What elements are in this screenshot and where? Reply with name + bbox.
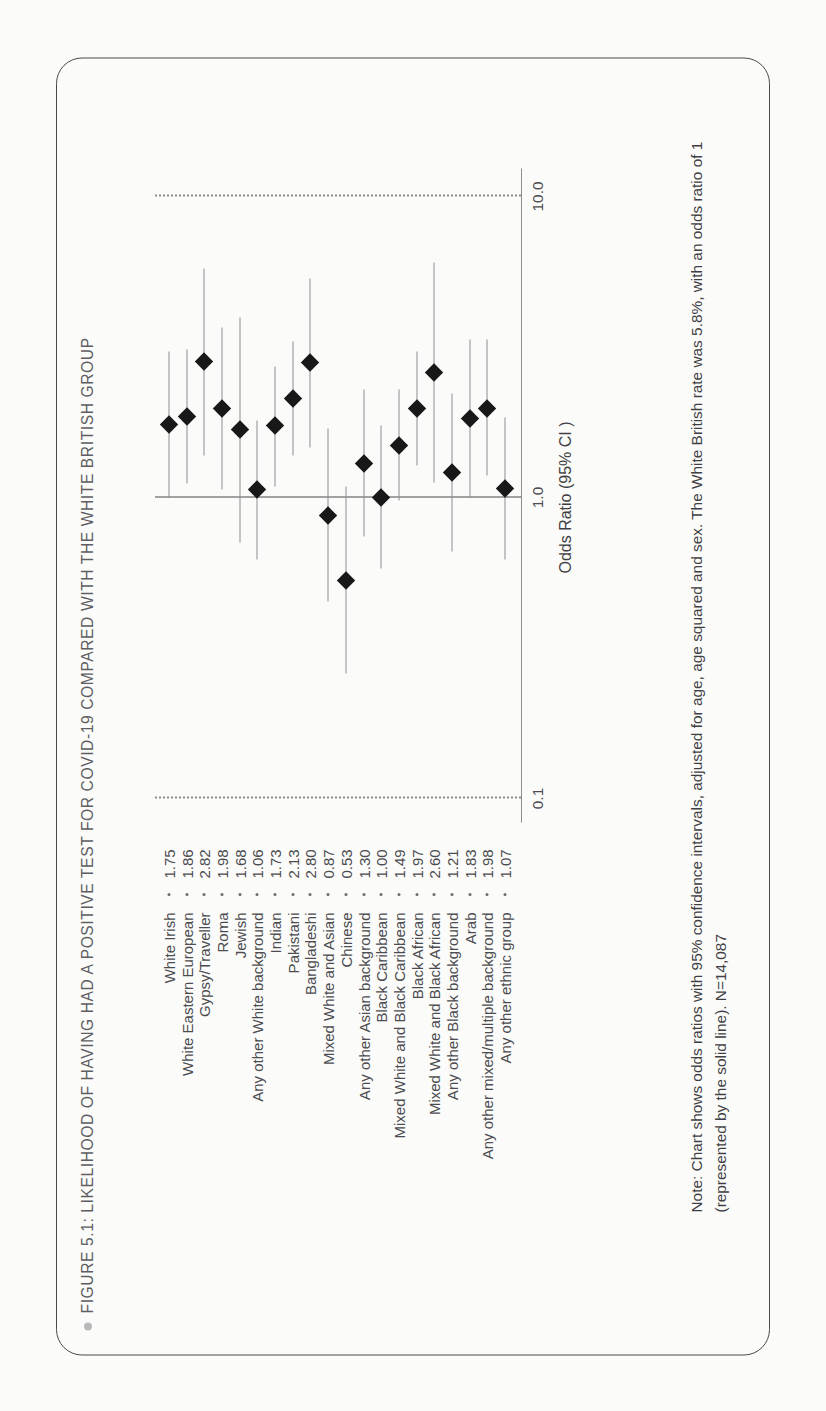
odds-ratio-marker [195, 352, 213, 370]
odds-ratio-value: 2.80 [302, 849, 319, 878]
x-tick-10.0: 10.0 [529, 181, 547, 211]
row-separator-dot-icon [486, 893, 489, 896]
x-tick-0.1: 0.1 [529, 787, 547, 809]
category-label: Mixed White and Asian [320, 912, 337, 1212]
figure-page: FIGURE 5.1: LIKELIHOOD OF HAVING HAD A P… [0, 0, 826, 1411]
category-label: Any other ethnic group [497, 912, 514, 1212]
row-separator-dot-icon [415, 893, 418, 896]
figure-note: Note: Chart shows odds ratios with 95% c… [685, 87, 733, 1212]
odds-ratio-value: 1.75 [161, 849, 178, 878]
odds-ratio-marker [301, 353, 319, 371]
forest-plot: 0.11.010.0Odds Ratio (95% CI )White Iris… [151, 170, 591, 1212]
row-separator-dot-icon [203, 893, 206, 896]
page-title: FIGURE 5.1: LIKELIHOOD OF HAVING HAD A P… [79, 337, 97, 1313]
category-label: Any other mixed/multiple background [479, 912, 496, 1212]
odds-ratio-marker [425, 363, 443, 381]
odds-ratio-value: 1.86 [178, 849, 195, 878]
category-label: Black African [408, 912, 425, 1212]
odds-ratio-marker [177, 407, 195, 425]
odds-ratio-value: 1.49 [390, 849, 407, 878]
row-separator-dot-icon [291, 893, 294, 896]
category-label: Gypsy/Traveller [196, 912, 213, 1212]
category-label: Any other Black background [443, 912, 460, 1212]
odds-ratio-value: 1.21 [443, 849, 460, 878]
odds-ratio-value: 1.98 [214, 849, 231, 878]
row-separator-dot-icon [397, 893, 400, 896]
odds-ratio-value: 1.98 [479, 849, 496, 878]
row-separator-dot-icon [256, 893, 259, 896]
category-label: Arab [461, 912, 478, 1212]
category-label: Mixed White and Black Caribbean [390, 912, 407, 1212]
figure-title-row: FIGURE 5.1: LIKELIHOOD OF HAVING HAD A P… [79, 337, 97, 1330]
row-separator-dot-icon [309, 893, 312, 896]
row-separator-dot-icon [168, 893, 171, 896]
row-separator-dot-icon [380, 893, 383, 896]
row-separator-dot-icon [274, 893, 277, 896]
category-label: Black Caribbean [373, 912, 390, 1212]
row-separator-dot-icon [238, 893, 241, 896]
row-separator-dot-icon [504, 893, 507, 896]
odds-ratio-value: 2.60 [426, 849, 443, 878]
odds-ratio-value: 1.07 [497, 849, 514, 878]
row-separator-dot-icon [221, 893, 224, 896]
odds-ratio-value: 2.13 [284, 849, 301, 878]
odds-ratio-marker [160, 415, 178, 433]
category-label: White Eastern European [178, 912, 195, 1212]
category-label: Roma [214, 912, 231, 1212]
odds-ratio-marker [496, 479, 514, 497]
x-axis-title: Odds Ratio (95% CI ) [557, 421, 575, 573]
row-separator-dot-icon [433, 893, 436, 896]
odds-ratio-value: 0.87 [320, 849, 337, 878]
odds-ratio-marker [266, 416, 284, 434]
figure-card: FIGURE 5.1: LIKELIHOOD OF HAVING HAD A P… [56, 57, 770, 1355]
category-label: White Irish [161, 912, 178, 1212]
gridline-0.1 [155, 796, 521, 798]
category-label: Indian [267, 912, 284, 1212]
odds-ratio-value: 2.82 [196, 849, 213, 878]
odds-ratio-marker [337, 571, 355, 589]
category-label: Any other White background [249, 912, 266, 1212]
odds-ratio-value: 1.06 [249, 849, 266, 878]
odds-ratio-value: 0.53 [337, 849, 354, 878]
odds-ratio-value: 1.68 [231, 849, 248, 878]
odds-ratio-marker [407, 399, 425, 417]
screenshot-root: FIGURE 5.1: LIKELIHOOD OF HAVING HAD A P… [0, 0, 826, 1411]
row-separator-dot-icon [344, 893, 347, 896]
row-separator-dot-icon [362, 893, 365, 896]
gridline-10 [155, 194, 521, 196]
row-separator-dot-icon [327, 893, 330, 896]
row-separator-dot-icon [468, 893, 471, 896]
odds-ratio-marker [284, 389, 302, 407]
category-label: Mixed White and Black African [426, 912, 443, 1212]
bullet-dot-icon [84, 1322, 92, 1330]
category-label: Chinese [337, 912, 354, 1212]
odds-ratio-value: 1.30 [355, 849, 372, 878]
category-label: Pakistani [284, 912, 301, 1212]
odds-ratio-marker [460, 409, 478, 427]
odds-ratio-marker [231, 420, 249, 438]
odds-ratio-marker [478, 399, 496, 417]
category-label: Any other Asian background [355, 912, 372, 1212]
odds-ratio-marker [354, 454, 372, 472]
odds-ratio-value: 1.97 [408, 849, 425, 878]
odds-ratio-marker [372, 488, 390, 506]
odds-ratio-value: 1.83 [461, 849, 478, 878]
odds-ratio-value: 1.00 [373, 849, 390, 878]
odds-ratio-marker [213, 399, 231, 417]
row-separator-dot-icon [185, 893, 188, 896]
odds-ratio-marker [319, 506, 337, 524]
x-axis-line [521, 168, 522, 822]
reference-line [155, 496, 521, 497]
x-tick-1.0: 1.0 [529, 486, 547, 508]
row-separator-dot-icon [450, 893, 453, 896]
odds-ratio-marker [390, 436, 408, 454]
odds-ratio-marker [443, 463, 461, 481]
category-label: Bangladeshi [302, 912, 319, 1212]
odds-ratio-value: 1.73 [267, 849, 284, 878]
category-label: Jewish [231, 912, 248, 1212]
